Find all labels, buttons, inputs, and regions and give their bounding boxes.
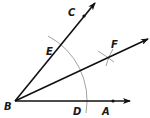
ray-BC: [15, 3, 95, 101]
point-C-dot: [82, 14, 85, 17]
label-E: E: [46, 46, 53, 57]
label-A: A: [101, 106, 110, 117]
label-D: D: [73, 106, 81, 117]
point-A-dot: [111, 99, 114, 102]
angle-bisector-diagram: B A C D E F: [0, 0, 150, 118]
label-C: C: [68, 7, 76, 18]
label-F: F: [111, 39, 118, 50]
ray-BF: [15, 39, 148, 101]
label-B: B: [4, 101, 12, 112]
